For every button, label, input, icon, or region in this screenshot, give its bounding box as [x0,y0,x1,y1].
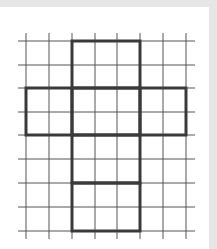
cube-net-outline [26,41,186,231]
grid-diagram [0,0,217,249]
